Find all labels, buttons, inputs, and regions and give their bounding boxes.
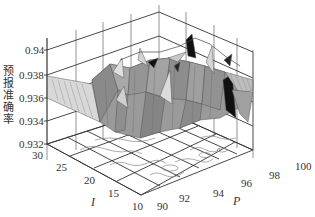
i-axis-label: I	[91, 195, 95, 210]
p-tick-94: 94	[213, 188, 224, 199]
i-tick-20: 20	[84, 175, 95, 186]
z-tick-0.936: 0.936	[19, 93, 44, 104]
p-tick-100: 100	[295, 161, 312, 172]
p-tick-96: 96	[241, 178, 252, 189]
p-tick-90: 90	[157, 201, 168, 212]
surface-mesh	[47, 34, 253, 138]
surface-chart	[0, 0, 315, 217]
i-tick-10: 10	[132, 201, 143, 212]
surface-plot-svg	[0, 0, 315, 217]
p-tick-98: 98	[269, 170, 280, 181]
z-tick-0.934: 0.934	[19, 116, 44, 127]
p-axis-label: P	[233, 194, 240, 209]
p-tick-92: 92	[179, 193, 190, 204]
i-tick-30: 30	[32, 150, 43, 161]
z-tick-0.938: 0.938	[19, 70, 44, 81]
z-axis-label: 预报准确率	[3, 66, 17, 126]
z-tick-0.94: 0.94	[25, 45, 44, 56]
i-tick-25: 25	[56, 162, 67, 173]
i-tick-15: 15	[108, 188, 119, 199]
